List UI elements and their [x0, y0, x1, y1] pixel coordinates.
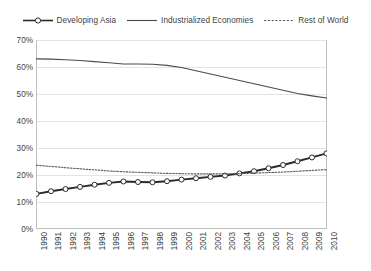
legend-item-developing-asia: Developing Asia	[23, 16, 116, 25]
x-axis-tick-label: 1999	[170, 232, 179, 250]
series-marker-developing-asia	[36, 191, 39, 196]
y-axis-tick-label: 70%	[17, 36, 33, 45]
series-line-industrialized-economies	[37, 59, 327, 98]
x-axis-tick-label: 1994	[98, 232, 107, 250]
legend-label-industrialized-economies: Industrialized Economies	[161, 16, 253, 25]
x-axis: 1990199119921993199419951996199719981999…	[36, 232, 327, 271]
legend-item-rest-of-world: Rest of World	[264, 16, 348, 25]
series-marker-developing-asia	[324, 151, 327, 156]
legend-label-rest-of-world: Rest of World	[298, 16, 348, 25]
x-axis-tick-label: 1992	[69, 232, 78, 250]
x-axis-tick-label: 2004	[243, 232, 252, 250]
series-marker-developing-asia	[266, 166, 271, 171]
chart-legend: Developing Asia Industrialized Economies…	[0, 10, 371, 30]
x-axis-tick-label: 2009	[315, 232, 324, 250]
series-marker-developing-asia	[165, 179, 170, 184]
series-marker-developing-asia	[107, 180, 112, 185]
series-marker-developing-asia	[295, 159, 300, 164]
legend-marker-line-solid-icon	[127, 16, 157, 25]
x-axis-tick-label: 2005	[257, 232, 266, 250]
series-marker-developing-asia	[63, 187, 68, 192]
x-axis-tick-label: 2001	[199, 232, 208, 250]
series-marker-developing-asia	[194, 176, 199, 181]
y-axis: 0%10%20%30%40%50%60%70%	[0, 40, 33, 229]
legend-marker-line-open-circle-icon	[23, 16, 53, 25]
series-marker-developing-asia	[78, 184, 83, 189]
series-marker-developing-asia	[281, 163, 286, 168]
legend-label-developing-asia: Developing Asia	[57, 16, 116, 25]
series-marker-developing-asia	[49, 189, 54, 194]
legend-item-industrialized-economies: Industrialized Economies	[127, 16, 253, 25]
x-axis-tick-label: 1995	[112, 232, 121, 250]
plot-svg	[36, 40, 327, 229]
x-axis-tick-label: 2006	[272, 232, 281, 250]
y-axis-tick-label: 10%	[17, 198, 33, 207]
y-axis-tick-label: 60%	[17, 63, 33, 72]
y-axis-tick-label: 20%	[17, 171, 33, 180]
x-axis-tick-label: 1990	[40, 232, 49, 250]
x-axis-tick-label: 2008	[301, 232, 310, 250]
y-axis-tick-label: 0%	[21, 225, 33, 234]
x-axis-tick-label: 1991	[54, 232, 63, 250]
chart-container: Developing Asia Industrialized Economies…	[0, 0, 371, 271]
series-marker-developing-asia	[92, 182, 97, 187]
y-axis-tick-label: 50%	[17, 90, 33, 99]
series-marker-developing-asia	[310, 155, 315, 160]
series-marker-developing-asia	[179, 177, 184, 182]
series-marker-developing-asia	[150, 180, 155, 185]
legend-marker-line-dotted-icon	[264, 16, 294, 25]
x-axis-tick-label: 2003	[228, 232, 237, 250]
x-axis-tick-label: 2007	[286, 232, 295, 250]
series-marker-developing-asia	[136, 180, 141, 185]
x-axis-tick-label: 1993	[83, 232, 92, 250]
x-axis-tick-label: 2000	[185, 232, 194, 250]
y-axis-tick-label: 40%	[17, 117, 33, 126]
y-axis-tick-label: 30%	[17, 144, 33, 153]
series-marker-developing-asia	[208, 174, 213, 179]
x-axis-tick-label: 2002	[214, 232, 223, 250]
x-axis-tick-label: 2010	[330, 232, 339, 250]
x-axis-tick-label: 1996	[127, 232, 136, 250]
x-axis-tick-label: 1998	[156, 232, 165, 250]
x-axis-tick-label: 1997	[141, 232, 150, 250]
plot-area	[36, 40, 327, 229]
series-marker-developing-asia	[121, 179, 126, 184]
